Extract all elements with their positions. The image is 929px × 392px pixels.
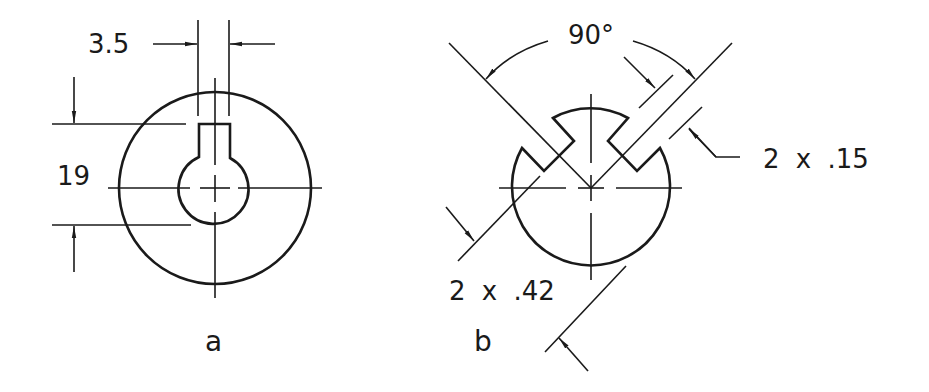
dimension-slot-width-label: 2 x .15 bbox=[763, 146, 869, 172]
dimension-angle-label: 90° bbox=[568, 22, 614, 48]
dimension-hub-height-label: 19 bbox=[57, 163, 90, 189]
figure-b-caption: b bbox=[474, 328, 492, 356]
technical-drawing bbox=[0, 0, 929, 392]
figure-a-caption: a bbox=[205, 328, 222, 356]
dimension-slot-offset-label: 2 x .42 bbox=[449, 278, 555, 304]
keyway-extension-lines bbox=[198, 20, 229, 116]
dimension-0.15-arrows bbox=[624, 57, 740, 157]
center-lines-a bbox=[108, 78, 322, 298]
bore-with-keyway bbox=[178, 124, 248, 224]
dimension-keyway-width-label: 3.5 bbox=[88, 31, 129, 57]
figure-a bbox=[52, 20, 322, 298]
figure-b bbox=[446, 41, 740, 371]
